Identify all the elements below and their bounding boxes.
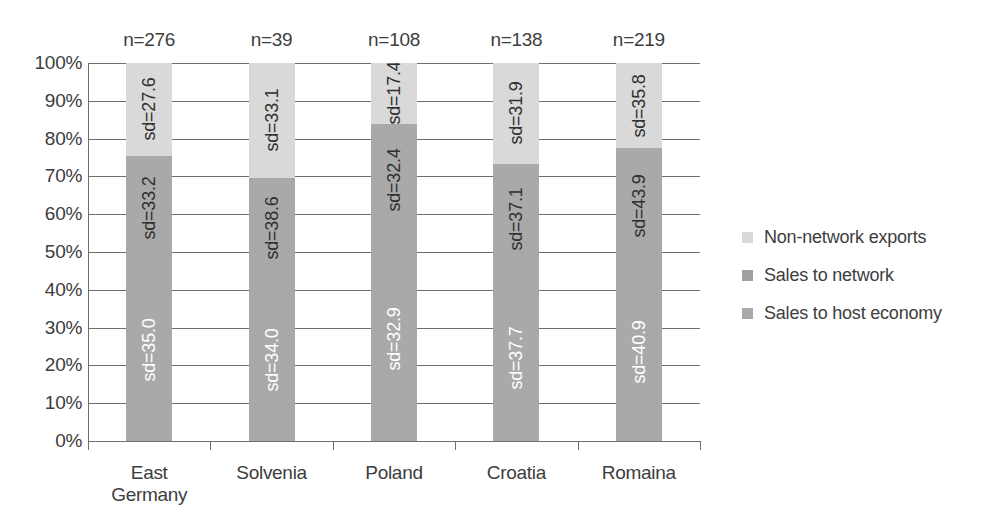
x-axis-category-label: Solvenia xyxy=(202,462,342,484)
bar-column: sd=37.7sd=37.1sd=31.9 xyxy=(493,63,539,441)
x-axis-tick xyxy=(210,442,211,450)
bar-column: sd=34.0sd=38.6sd=33.1 xyxy=(249,63,295,441)
bar-segment: sd=32.4 xyxy=(371,124,417,237)
bar-segment-label: sd=43.9 xyxy=(630,174,648,237)
bar-segment: sd=31.9 xyxy=(493,63,539,164)
legend-item[interactable]: Non-network exports xyxy=(742,218,986,256)
sample-size-label: n=108 xyxy=(324,30,464,49)
y-axis: 100%90%80%70%60%50%40%30%20%10%0% xyxy=(8,0,82,527)
bar-segment-label: sd=37.1 xyxy=(507,188,525,251)
sample-size-label: n=219 xyxy=(569,30,709,49)
bar-segment: sd=32.9 xyxy=(371,237,417,441)
y-axis-tick-label: 10% xyxy=(18,393,82,412)
legend-swatch-icon xyxy=(742,232,753,243)
x-axis-tick xyxy=(578,442,579,450)
bar-segment-label: sd=27.6 xyxy=(140,78,158,141)
bar-column: sd=32.9sd=32.4sd=17.4 xyxy=(371,63,417,441)
x-axis-category-label: Poland xyxy=(324,462,464,484)
chart-legend: Non-network exportsSales to networkSales… xyxy=(742,218,986,332)
bar-segment-label: sd=40.9 xyxy=(630,321,648,384)
sample-size-label: n=276 xyxy=(79,30,219,49)
x-axis-tick xyxy=(455,442,456,450)
y-axis-tick-label: 0% xyxy=(18,431,82,450)
bar-segment: sd=33.1 xyxy=(249,63,295,178)
bar-segment-label: sd=31.9 xyxy=(507,82,525,145)
bar-segment-label: sd=33.1 xyxy=(263,89,281,152)
bar-column: sd=40.9sd=43.9sd=35.8 xyxy=(616,63,662,441)
bar-segment: sd=38.6 xyxy=(249,178,295,279)
legend-label: Sales to host economy xyxy=(764,304,942,322)
bar-segment: sd=37.1 xyxy=(493,164,539,275)
sample-size-label: n=138 xyxy=(446,30,586,49)
bar-segment-label: sd=17.4 xyxy=(385,63,403,124)
bar-segment: sd=17.4 xyxy=(371,63,417,124)
bar-segment: sd=35.8 xyxy=(616,63,662,148)
legend-item[interactable]: Sales to network xyxy=(742,256,986,294)
bar-segment-label: sd=32.9 xyxy=(385,307,403,370)
y-axis-tick-label: 100% xyxy=(18,53,82,72)
bar-segment-label: sd=35.8 xyxy=(630,74,648,137)
bar-segment: sd=37.7 xyxy=(493,275,539,441)
legend-label: Sales to network xyxy=(764,266,894,284)
x-axis-tick xyxy=(88,442,89,450)
legend-swatch-icon xyxy=(742,270,753,281)
bar-segment-label: sd=38.6 xyxy=(263,197,281,260)
y-axis-tick-label: 30% xyxy=(18,318,82,337)
stacked-bar-chart: 100%90%80%70%60%50%40%30%20%10%0% sd=35.… xyxy=(0,0,994,527)
bar-column: sd=35.0sd=33.2sd=27.6 xyxy=(126,63,172,441)
legend-label: Non-network exports xyxy=(764,228,926,246)
y-axis-tick-label: 20% xyxy=(18,355,82,374)
bar-segment: sd=27.6 xyxy=(126,63,172,156)
y-axis-tick-label: 50% xyxy=(18,242,82,261)
bar-segment: sd=34.0 xyxy=(249,278,295,441)
bar-segment: sd=35.0 xyxy=(126,260,172,441)
y-axis-tick-label: 70% xyxy=(18,166,82,185)
bar-segment-label: sd=35.0 xyxy=(140,319,158,382)
bar-segment-label: sd=33.2 xyxy=(140,176,158,239)
x-axis-line xyxy=(88,441,701,442)
x-axis-tick xyxy=(700,442,701,450)
bar-segment: sd=43.9 xyxy=(616,148,662,263)
x-axis-category-label: Romaina xyxy=(569,462,709,484)
x-axis-category-label: Croatia xyxy=(446,462,586,484)
bar-segment-label: sd=32.4 xyxy=(385,149,403,212)
y-axis-tick-label: 80% xyxy=(18,129,82,148)
bar-segment: sd=40.9 xyxy=(616,263,662,441)
sample-size-label: n=39 xyxy=(202,30,342,49)
bar-segment-label: sd=37.7 xyxy=(507,326,525,389)
x-axis-category-label: East Germany xyxy=(79,462,219,506)
y-axis-tick-label: 90% xyxy=(18,91,82,110)
legend-swatch-icon xyxy=(742,308,753,319)
legend-item[interactable]: Sales to host economy xyxy=(742,294,986,332)
bar-segment-label: sd=34.0 xyxy=(263,328,281,391)
bar-segment: sd=33.2 xyxy=(126,156,172,260)
x-axis-tick xyxy=(333,442,334,450)
y-axis-tick-label: 40% xyxy=(18,280,82,299)
y-axis-tick-label: 60% xyxy=(18,204,82,223)
plot-area: sd=35.0sd=33.2sd=27.6sd=34.0sd=38.6sd=33… xyxy=(88,63,700,441)
